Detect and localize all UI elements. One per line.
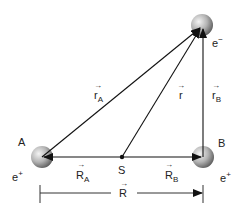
charge-b: e+ [220,170,231,184]
electron-label: e− [212,35,223,49]
label-r: r [179,89,183,101]
label-b: B [218,137,225,149]
vector-r [122,29,200,157]
label-s: S [118,164,125,176]
label-R-a: RA [76,169,90,184]
charge-a: e+ [12,169,23,183]
arrow-glyph: → [165,160,173,169]
label-R-b: RB [165,169,178,184]
vector-r-a [42,28,200,157]
center-point-s [120,155,124,159]
label-r-a: rA [94,89,104,104]
vector-diagram: e− → rA → r → rB A e+ → RA S → RB B e+ →… [0,0,239,217]
label-R: R [119,187,127,199]
label-a: A [18,136,26,148]
label-r-b: rB [212,89,221,104]
arrow-glyph: → [77,160,85,169]
